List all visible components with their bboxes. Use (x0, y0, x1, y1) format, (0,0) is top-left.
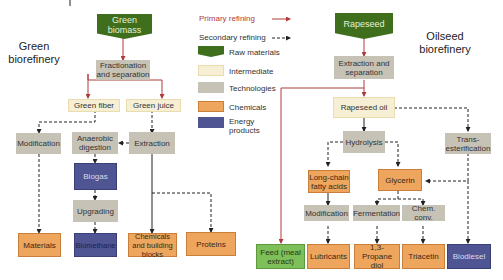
legend-technologies-swatch (198, 82, 224, 93)
biogas-node: Biogas (74, 163, 117, 190)
propanediol-node: 1,3-Propane diol (354, 244, 400, 269)
transesterification-node: Trans-esterification (445, 133, 491, 154)
upgrading-node: Upgrading (73, 200, 118, 222)
legend-raw-label: Raw materials (229, 48, 280, 57)
extraction-node: Extraction (129, 132, 175, 154)
green-biorefinery-title: Green biorefinery (4, 40, 64, 66)
lubricants-node: Lubricants (307, 244, 350, 269)
legend-technologies-label: Technologies (229, 84, 276, 93)
chem-conv-node: Chem. conv. (402, 205, 445, 221)
oilseed-biorefinery-title: Oilseed biorefinery (410, 30, 480, 56)
extraction-separation-node: Extraction and separation (334, 56, 394, 79)
rapeseed-oil-node: Rapeseed oil (333, 97, 395, 118)
legend-secondary-label: Secondary refining (199, 33, 266, 42)
green-fiber-node: Green fiber (68, 99, 120, 112)
biodiesel-node: Biodiesel (447, 244, 491, 269)
fractionation-node: Fractionation and separation (96, 60, 150, 80)
fatty-acids-node: Long-chain fatty acids (308, 170, 350, 193)
legend-intermediate-swatch (198, 65, 224, 76)
hydrolysis-node: Hydrolysis (343, 131, 385, 153)
modification-oil-node: Modification (304, 205, 349, 221)
feed-node: Feed (meal extract) (256, 244, 305, 269)
materials-node: Materials (18, 233, 61, 257)
legend-energy-swatch (198, 117, 224, 128)
green-juice-node: Green juice (126, 99, 181, 112)
legend-chemicals-label: Chemicals (229, 103, 266, 112)
legend-energy-label: Energy products (229, 117, 269, 135)
chemicals-building-blocks-node: Chemicals and building blocks (128, 233, 177, 257)
legend-primary-label: Primary refining (199, 14, 255, 23)
legend-intermediate-label: Intermediate (229, 67, 273, 76)
modification-node: Modification (16, 133, 61, 154)
anaerobic-digestion-node: Anaerobic digestion (72, 132, 118, 154)
fermentation-node: Fermentation (353, 205, 400, 221)
proteins-node: Proteins (186, 232, 236, 256)
glycerin-node: Glycerin (378, 169, 422, 191)
legend-chemicals-swatch (198, 101, 224, 112)
triacetin-node: Triacetin (402, 244, 445, 269)
biomethane-node: Biomethane (74, 233, 117, 257)
